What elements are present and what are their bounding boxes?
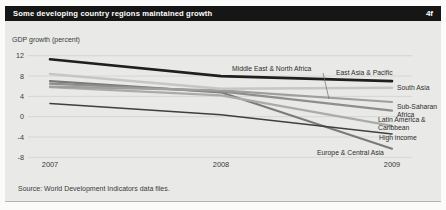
y-tick-label: 8 <box>20 72 24 81</box>
series-label: Sub-Saharan <box>397 103 437 110</box>
x-tick-label: 2008 <box>213 160 229 169</box>
series-label: Latin America & <box>378 116 426 123</box>
series-label: Europe & Central Asia <box>317 149 384 157</box>
series-label: East Asia & Pacific <box>336 69 393 76</box>
y-tick-label: -4 <box>18 133 24 142</box>
series-label: Middle East & North Africa <box>232 65 312 72</box>
series-label: High income <box>379 134 417 142</box>
chart-svg: 12840-4-8200720082009East Asia & Pacific… <box>0 0 446 210</box>
x-tick-label: 2007 <box>42 160 58 169</box>
source-text: Source: World Development Indicators dat… <box>18 185 170 192</box>
series-line-high-income <box>50 104 392 135</box>
label-leader-line <box>323 73 329 99</box>
y-tick-label: 12 <box>16 51 24 60</box>
y-tick-label: 0 <box>20 112 24 121</box>
series-label: Caribbean <box>378 124 410 131</box>
y-tick-label: -8 <box>18 153 24 162</box>
series-label: South Asia <box>397 84 430 91</box>
x-tick-label: 2009 <box>384 160 400 169</box>
y-tick-label: 4 <box>20 92 24 101</box>
